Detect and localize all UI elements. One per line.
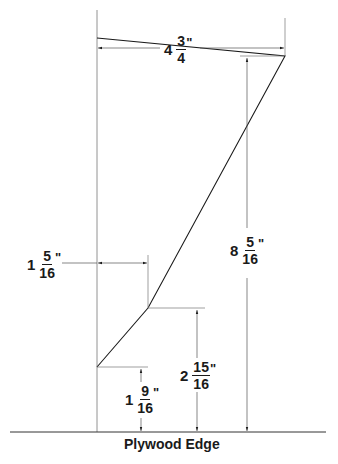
label-knee-offset: 1 516 " — [27, 249, 61, 280]
label-total-height: 8 516 " — [230, 235, 264, 266]
label-base-height: 1 916 " — [125, 384, 159, 415]
label-knee-height: 2 1516 " — [180, 360, 216, 391]
plywood-edge-label: Plywood Edge — [124, 436, 220, 452]
drawing-canvas — [0, 0, 338, 464]
label-top-width: 4 34 " — [164, 34, 192, 65]
profile-outline — [97, 38, 285, 367]
